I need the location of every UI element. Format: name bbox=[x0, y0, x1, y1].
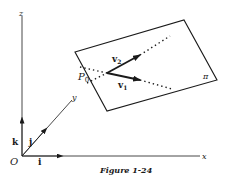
figure-caption: Figure 1-24 bbox=[99, 165, 153, 175]
figure-canvas: z x y O k j i P0 v2 v1 π Figure 1-24 bbox=[0, 0, 227, 183]
dotted-line-v2-extension bbox=[140, 36, 170, 55]
unit-vector-k-label: k bbox=[12, 137, 19, 147]
z-axis-label: z bbox=[18, 9, 24, 18]
dotted-line-p0-lower bbox=[87, 73, 107, 83]
unit-vector-j-arrow bbox=[22, 130, 45, 156]
point-p0-label: P0 bbox=[77, 71, 89, 84]
dotted-line-v1-extension bbox=[140, 80, 172, 89]
vector-v2-label: v2 bbox=[111, 54, 121, 65]
plane-pi bbox=[75, 20, 217, 111]
unit-vector-j-label: j bbox=[28, 137, 32, 147]
vector-v1-arrow bbox=[107, 73, 140, 80]
y-axis-label: y bbox=[71, 93, 77, 102]
unit-vector-i-label: i bbox=[38, 157, 42, 167]
origin-label: O bbox=[10, 156, 18, 167]
vector-v1-label: v1 bbox=[117, 80, 127, 91]
plane-pi-label: π bbox=[202, 72, 209, 81]
x-axis-label: x bbox=[202, 152, 207, 161]
